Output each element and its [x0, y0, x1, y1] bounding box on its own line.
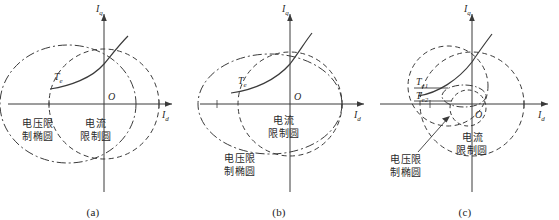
- current-limit-circle-label-a-line1: 电流: [85, 117, 106, 129]
- voltage-limit-ellipse-label-a-line1: 电压限: [22, 117, 54, 129]
- origin-label-c: O: [475, 109, 482, 120]
- y-axis-label-a: Iq: [95, 3, 103, 17]
- voltage-limit-ellipse-label-a-line2: 制椭圆: [22, 130, 54, 142]
- panel-c-caption: (c): [372, 206, 558, 218]
- origin-label-a: O: [108, 91, 115, 102]
- current-limit-circle-label-b-line1: 电流: [273, 114, 294, 126]
- axes-group-a: [8, 14, 172, 192]
- origin-label-b: O: [294, 91, 301, 102]
- current-limit-circle-label-b-line2: 限制圆: [268, 127, 300, 139]
- panel-c-plot: Iq Id O Te1 Te2 电流 限制圆 电压限 制椭圆: [372, 0, 558, 200]
- panel-b: Iq Id O Te 电流 限制圆 电压限 制椭圆 (b): [186, 0, 372, 220]
- panel-a: Iq Id O Te 电压限 制椭圆 电流 限制圆 (a): [0, 0, 186, 220]
- axes-group-c: [380, 14, 548, 192]
- y-axis-label-b: Iq: [281, 3, 289, 17]
- current-limit-circle-label-a-line2: 限制圆: [80, 130, 112, 142]
- current-limit-circle-c-small: [450, 90, 486, 126]
- panel-b-caption: (b): [186, 206, 372, 218]
- panel-a-caption: (a): [0, 206, 186, 218]
- panel-c: Iq Id O Te1 Te2 电流 限制圆 电压限 制椭圆 (c): [372, 0, 558, 220]
- torque-label-a: Te: [54, 71, 63, 85]
- panel-b-plot: Iq Id O Te 电流 限制圆 电压限 制椭圆: [186, 0, 372, 200]
- voltage-limit-ellipse-label-c-line2: 制椭圆: [390, 166, 422, 178]
- voltage-limit-ellipse-label-b-line2: 制椭圆: [224, 165, 256, 177]
- torque-curve-c: [418, 34, 492, 96]
- x-axis-label-b: Id: [353, 109, 361, 123]
- voltage-limit-ellipse-label-c-line1: 电压限: [390, 153, 422, 165]
- panel-a-plot: Iq Id O Te 电压限 制椭圆 电流 限制圆: [0, 0, 186, 200]
- torque-label-c-1: Te1: [416, 76, 428, 90]
- current-limit-circle-label-c-line1: 电流: [462, 131, 483, 143]
- y-axis-label-c: Iq: [463, 3, 471, 17]
- x-axis-label-a: Id: [161, 109, 169, 123]
- x-axis-label-c: Id: [537, 109, 545, 123]
- voltage-limit-ellipse-label-b-line1: 电压限: [224, 152, 256, 164]
- current-limit-circle-label-c-line2: 限制圆: [456, 144, 488, 156]
- figure-root: Iq Id O Te 电压限 制椭圆 电流 限制圆 (a): [0, 0, 559, 220]
- torque-label-c-2: Te2: [416, 90, 429, 104]
